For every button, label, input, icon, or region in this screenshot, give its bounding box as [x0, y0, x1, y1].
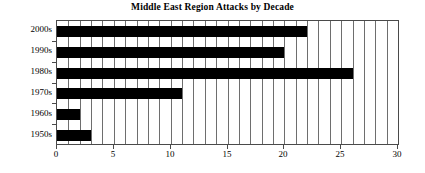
- bar-row: [57, 26, 398, 37]
- x-tick-mark: [113, 145, 114, 149]
- x-tick-label-5: 5: [93, 149, 133, 159]
- bar-1970s[interactable]: [57, 88, 182, 99]
- bar-2000s[interactable]: [57, 26, 307, 37]
- y-tick-label-1990s: 1990s: [0, 45, 52, 55]
- bar-1960s[interactable]: [57, 109, 80, 120]
- bar-1990s[interactable]: [57, 47, 284, 58]
- x-axis: 051015202530: [0, 149, 425, 165]
- x-tick-label-15: 15: [207, 149, 247, 159]
- x-tick-mark: [170, 145, 171, 149]
- x-tick-label-30: 30: [377, 149, 417, 159]
- y-axis: 2000s1990s1980s1970s1960s1950s: [0, 20, 52, 145]
- bar-row: [57, 47, 398, 58]
- bar-row: [57, 88, 398, 99]
- x-tick-mark: [283, 145, 284, 149]
- bars-layer: [57, 21, 398, 144]
- x-tick-mark: [227, 145, 228, 149]
- bar-1950s[interactable]: [57, 130, 91, 141]
- y-tick-label-1970s: 1970s: [0, 87, 52, 97]
- bar-row: [57, 109, 398, 120]
- chart-title: Middle East Region Attacks by Decade: [0, 2, 425, 12]
- x-tick-mark: [397, 145, 398, 149]
- y-tick-label-2000s: 2000s: [0, 24, 52, 34]
- bar-chart-figure: Middle East Region Attacks by Decade 200…: [0, 0, 425, 173]
- bar-row: [57, 68, 398, 79]
- plot-area: [56, 20, 399, 145]
- x-tick-mark: [56, 145, 57, 149]
- y-tick-label-1950s: 1950s: [0, 129, 52, 139]
- x-tick-label-20: 20: [263, 149, 303, 159]
- y-tick-label-1980s: 1980s: [0, 66, 52, 76]
- bar-row: [57, 130, 398, 141]
- bar-1980s[interactable]: [57, 68, 353, 79]
- x-tick-label-25: 25: [320, 149, 360, 159]
- x-tick-label-10: 10: [150, 149, 190, 159]
- y-tick-label-1960s: 1960s: [0, 108, 52, 118]
- x-tick-mark: [340, 145, 341, 149]
- x-tick-label-0: 0: [36, 149, 76, 159]
